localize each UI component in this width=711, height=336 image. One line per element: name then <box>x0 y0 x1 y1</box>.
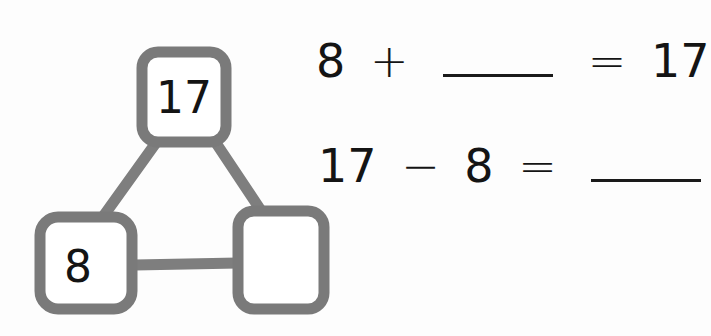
eq1-addend: 8 <box>316 38 345 84</box>
eq1-answer-blank[interactable] <box>443 74 553 77</box>
whole-value: 17 <box>148 76 220 120</box>
equals-sign: = <box>588 38 627 84</box>
connector-top-left <box>102 140 158 218</box>
part-known-value: 8 <box>48 245 108 289</box>
eq2-answer-blank[interactable] <box>591 179 701 182</box>
eq2-minuend: 17 <box>318 143 377 189</box>
connector-top-right <box>214 140 262 212</box>
connector-bottom <box>135 263 238 265</box>
part-unknown-box[interactable] <box>238 211 324 309</box>
eq1-sum: 17 <box>651 38 710 84</box>
eq2-subtrahend: 8 <box>464 143 493 189</box>
equation-subtraction: 17 − 8 = <box>318 143 711 189</box>
equals-sign: = <box>518 143 557 189</box>
minus-sign: − <box>401 143 440 189</box>
plus-sign: + <box>370 38 409 84</box>
equation-addition: 8 + = 17 <box>316 38 709 84</box>
